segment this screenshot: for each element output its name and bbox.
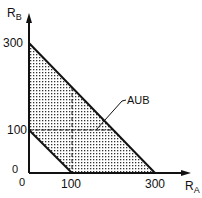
y-tick-100: 100 bbox=[7, 124, 27, 136]
diagram-canvas bbox=[0, 0, 202, 198]
x-tick-300: 300 bbox=[145, 178, 165, 190]
region-label-aub: AUB bbox=[127, 94, 150, 106]
y-tick-300: 300 bbox=[3, 37, 23, 49]
x-tick-0: 0 bbox=[19, 176, 25, 188]
x-axis-label: RA bbox=[185, 180, 200, 193]
y-axis-label: RB bbox=[7, 7, 22, 20]
y-tick-0: 0 bbox=[12, 163, 18, 175]
x-tick-100: 100 bbox=[61, 178, 81, 190]
x-axis-arrow-icon bbox=[181, 170, 191, 176]
y-axis-arrow-icon bbox=[26, 13, 32, 23]
region-leader-line bbox=[96, 100, 126, 130]
